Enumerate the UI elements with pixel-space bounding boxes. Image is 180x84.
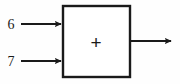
operator-symbol: + <box>90 32 101 53</box>
input-label-2: 7 <box>8 54 15 69</box>
block-diagram-canvas: + 6 7 <box>0 0 180 84</box>
diagram-svg: + 6 7 <box>0 0 180 84</box>
input-label-1: 6 <box>8 17 15 32</box>
